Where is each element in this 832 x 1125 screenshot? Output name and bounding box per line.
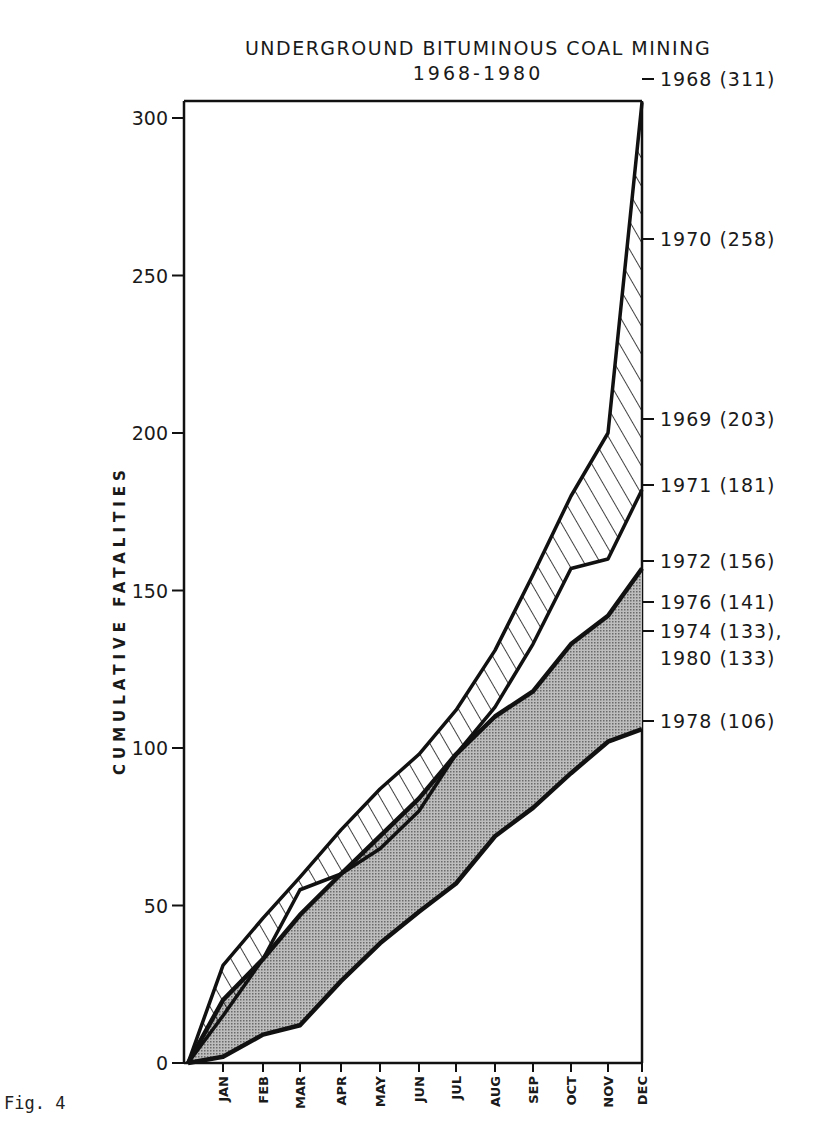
y-tick-label: 300 bbox=[132, 107, 168, 129]
y-tick-label: 150 bbox=[132, 580, 168, 602]
x-tick-label: OCT bbox=[564, 1076, 579, 1106]
figure-caption: Fig. 4 bbox=[4, 1093, 65, 1113]
y-axis-label: CUMULATIVE FATALITIES bbox=[111, 465, 129, 775]
x-tick-label: JAN bbox=[216, 1076, 231, 1103]
data-bands bbox=[188, 102, 642, 1063]
x-tick-label: JUL bbox=[449, 1076, 464, 1101]
year-total-label: 1971 (181) bbox=[660, 474, 775, 496]
year-total-label: 1969 (203) bbox=[660, 408, 775, 430]
y-tick-label: 100 bbox=[132, 737, 168, 759]
x-tick-label: DEC bbox=[635, 1076, 650, 1105]
x-tick-label: JUN bbox=[412, 1076, 427, 1103]
x-tick-label: APR bbox=[334, 1076, 349, 1106]
x-tick-label: MAR bbox=[293, 1076, 308, 1109]
y-tick-label: 200 bbox=[132, 422, 168, 444]
y-tick-label: 250 bbox=[132, 265, 168, 287]
x-tick-label: FEB bbox=[256, 1076, 271, 1104]
x-tick-label: AUG bbox=[488, 1076, 503, 1107]
x-tick-label: SEP bbox=[526, 1076, 541, 1104]
year-total-label: 1968 (311) bbox=[660, 68, 775, 90]
x-tick-label: NOV bbox=[601, 1076, 616, 1108]
chart-canvas: 050100150200250300 JANFEBMARAPRMAYJUNJUL… bbox=[0, 0, 832, 1125]
year-total-annotations: 1968 (311)1970 (258)1969 (203)1971 (181)… bbox=[642, 68, 783, 732]
x-axis: JANFEBMARAPRMAYJUNJULAUGSEPOCTNOVDEC bbox=[216, 1063, 650, 1109]
year-total-label: 1980 (133) bbox=[660, 647, 775, 669]
y-axis: 050100150200250300 bbox=[132, 107, 184, 1074]
year-total-label: 1970 (258) bbox=[660, 228, 775, 250]
year-total-label: 1976 (141) bbox=[660, 591, 775, 613]
y-tick-label: 50 bbox=[144, 895, 168, 917]
year-total-label: 1972 (156) bbox=[660, 550, 775, 572]
x-tick-label: MAY bbox=[373, 1075, 388, 1107]
year-total-label: 1974 (133), bbox=[660, 620, 783, 642]
hatched-band-1968-1971 bbox=[188, 102, 642, 1063]
year-total-label: 1978 (106) bbox=[660, 710, 775, 732]
y-tick-label: 0 bbox=[156, 1052, 168, 1074]
hatched-upper-line bbox=[188, 102, 642, 1063]
